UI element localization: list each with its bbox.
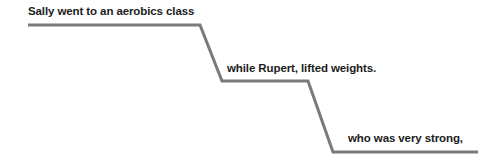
caption-step-3: who was very strong, xyxy=(348,132,463,145)
diagram-canvas: Sally went to an aerobics class while Ru… xyxy=(0,0,485,167)
caption-step-1: Sally went to an aerobics class xyxy=(28,5,194,18)
caption-step-2: while Rupert, lifted weights. xyxy=(227,62,376,75)
